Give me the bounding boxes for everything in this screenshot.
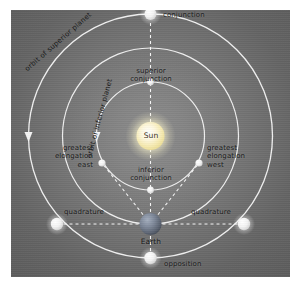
label-inferior-conjunction: inferior conjunction xyxy=(121,166,181,183)
label-opposition: opposition xyxy=(164,260,201,268)
label-quadrature-left: quadrature xyxy=(64,208,104,216)
planetary-configurations-figure: orbit of superior planet orbit of inferi… xyxy=(0,0,299,290)
label-elongation-east-line2: elongation xyxy=(33,152,93,160)
label-elongation-east-line3: east xyxy=(33,161,93,169)
earth-body[interactable] xyxy=(140,213,162,235)
label-elongation-west-line3: west xyxy=(207,161,271,169)
direction-arrow-superior-icon xyxy=(25,132,33,142)
label-elongation-west-line2: elongation xyxy=(207,152,271,160)
marker-quadrature-left[interactable] xyxy=(51,218,63,230)
marker-quadrature-right[interactable] xyxy=(238,218,250,230)
marker-inferior-conjunction[interactable] xyxy=(147,187,154,194)
marker-greatest-elongation-east[interactable] xyxy=(98,159,105,166)
diagram-panel: orbit of superior planet orbit of inferi… xyxy=(11,10,290,277)
label-conjunction: conjunction xyxy=(163,11,205,19)
earth-label: Earth xyxy=(121,238,181,246)
label-inferior-conjunction-line2: conjunction xyxy=(121,174,181,182)
label-superior-conjunction: superior conjunction xyxy=(121,67,181,84)
marker-greatest-elongation-west[interactable] xyxy=(195,159,202,166)
marker-opposition[interactable] xyxy=(144,252,156,264)
label-greatest-elongation-east: greatest elongation east xyxy=(33,144,93,169)
label-quadrature-right: quadrature xyxy=(191,208,231,216)
label-greatest-elongation-west: greatest elongation west xyxy=(207,144,271,169)
label-superior-conjunction-line2: conjunction xyxy=(121,75,181,83)
sun-label: Sun xyxy=(121,132,181,140)
